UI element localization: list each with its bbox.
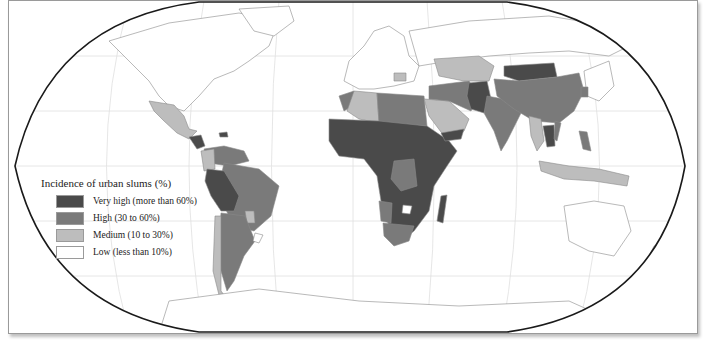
legend-title: Incidence of urban slums (%) (41, 177, 251, 189)
clipped-caption (28, 341, 108, 345)
swatch-high (56, 212, 84, 225)
swatch-low (56, 246, 84, 259)
uruguay (253, 233, 263, 243)
legend-label: Medium (10 to 30%) (93, 230, 173, 240)
legend-item-high: High (30 to 60%) (56, 210, 251, 226)
korea-japan (584, 61, 614, 101)
romania (394, 73, 406, 81)
central-america (189, 135, 205, 149)
vietnam (554, 121, 561, 141)
legend-item-medium: Medium (10 to 30%) (56, 227, 251, 243)
north-korea (581, 87, 588, 97)
legend-label: Very high (more than 60%) (93, 196, 197, 206)
legend-item-very-high: Very high (more than 60%) (56, 193, 251, 209)
legend-item-low: Low (less than 10%) (56, 244, 251, 260)
madagascar (437, 195, 447, 223)
map-frame: Incidence of urban slums (%) Very high (… (8, 0, 698, 334)
legend-label: Low (less than 10%) (93, 247, 172, 257)
cambodia-laos (543, 125, 555, 147)
swatch-medium (56, 229, 84, 242)
south-africa (383, 223, 414, 246)
namibia (379, 201, 392, 223)
central-asia (434, 56, 494, 81)
swatch-very-high (56, 195, 84, 208)
world-map (9, 1, 697, 333)
legend-label: High (30 to 60%) (93, 213, 160, 223)
colombia (201, 149, 215, 171)
zimbabwe (402, 205, 412, 214)
europe (344, 26, 419, 89)
libya-egypt (377, 93, 427, 126)
philippines (579, 131, 591, 151)
legend: Incidence of urban slums (%) Very high (… (41, 177, 251, 261)
indonesia (539, 161, 629, 186)
antarctica (159, 289, 609, 333)
caribbean (219, 132, 228, 137)
new-zealand (644, 241, 664, 267)
australia (564, 201, 631, 256)
